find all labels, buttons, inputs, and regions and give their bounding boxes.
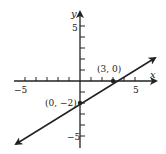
point-0-neg2 [78, 101, 82, 105]
y-tick-label-neg5: −5 [67, 132, 81, 142]
graph-line [16, 58, 155, 144]
point-3-0 [111, 79, 115, 83]
coordinate-plane: y x 5 −5 −5 5 (3, 0) (0, −2) [0, 0, 166, 154]
point-label-0-neg2: (0, −2) [45, 98, 77, 108]
x-tick-label-neg5: −5 [14, 85, 28, 95]
y-axis-label: y [70, 8, 77, 19]
point-label-3-0: (3, 0) [97, 64, 121, 74]
x-tick-label-5: 5 [133, 85, 139, 95]
x-axis-label: x [150, 69, 156, 80]
y-tick-label-5: 5 [72, 23, 78, 33]
